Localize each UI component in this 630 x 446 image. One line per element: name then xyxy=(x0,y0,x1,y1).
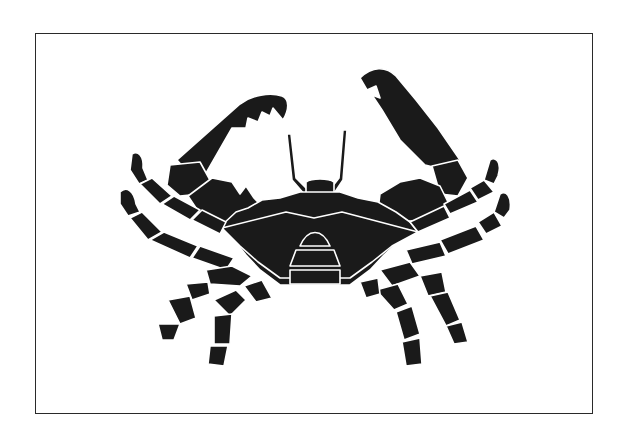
antennae xyxy=(287,130,347,195)
crab-illustration xyxy=(0,0,630,446)
